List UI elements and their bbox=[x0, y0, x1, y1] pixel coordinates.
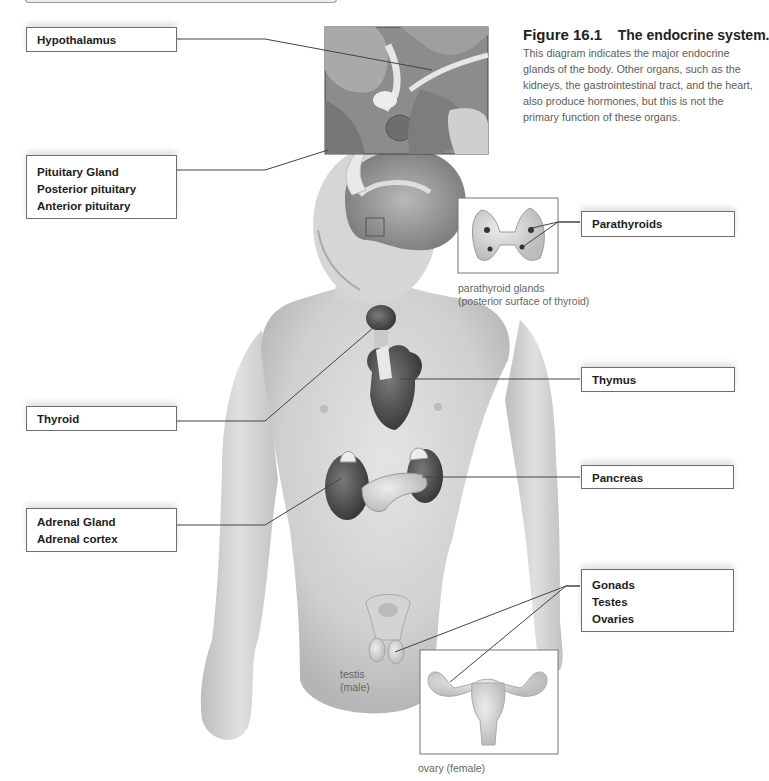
figure-number: Figure 16.1 bbox=[523, 26, 602, 43]
testis-caption-line2: (male) bbox=[340, 681, 370, 694]
label-anterior-pituitary: Anterior pituitary bbox=[37, 198, 166, 215]
pituitary-inset bbox=[325, 27, 488, 154]
label-gonads-text: Gonads bbox=[592, 577, 723, 594]
label-ovaries-text: Ovaries bbox=[592, 611, 723, 628]
label-hypothalamus-text: Hypothalamus bbox=[37, 32, 166, 49]
testis-caption: testis (male) bbox=[340, 668, 370, 694]
label-thymus-text: Thymus bbox=[592, 372, 724, 389]
label-thyroid: Thyroid bbox=[26, 406, 177, 431]
thyroid-icon bbox=[366, 305, 396, 331]
label-gonads: Gonads Testes Ovaries bbox=[581, 569, 734, 632]
figure-caption: Figure 16.1 The endocrine system. This d… bbox=[523, 26, 753, 125]
figure-title: Figure 16.1 The endocrine system. bbox=[523, 26, 753, 44]
label-testes-text: Testes bbox=[592, 594, 723, 611]
label-adrenal-gland: Adrenal Gland bbox=[37, 514, 166, 531]
ovary-inset bbox=[420, 650, 558, 754]
label-pituitary: Pituitary Gland Posterior pituitary Ante… bbox=[26, 155, 177, 219]
label-adrenal-cortex: Adrenal cortex bbox=[37, 531, 166, 548]
brain-icon bbox=[345, 150, 466, 250]
label-thyroid-text: Thyroid bbox=[37, 411, 166, 428]
label-posterior-pituitary: Posterior pituitary bbox=[37, 181, 166, 198]
label-adrenal: Adrenal Gland Adrenal cortex bbox=[26, 508, 177, 552]
parathyroid-inset-caption: parathyroid glands (posterior surface of… bbox=[458, 282, 589, 308]
label-thymus: Thymus bbox=[581, 367, 735, 392]
parathyroid-caption-line1: parathyroid glands bbox=[458, 282, 589, 295]
testis-caption-line1: testis bbox=[340, 668, 370, 681]
label-pituitary-gland: Pituitary Gland bbox=[37, 164, 166, 181]
label-pancreas-text: Pancreas bbox=[592, 470, 723, 487]
testis-icon bbox=[369, 638, 385, 662]
label-hypothalamus: Hypothalamus bbox=[26, 27, 177, 52]
figure-caption-body: This diagram indicates the major endocri… bbox=[523, 45, 753, 125]
label-parathyroids-text: Parathyroids bbox=[592, 216, 724, 233]
ovary-caption: ovary (female) bbox=[418, 762, 485, 775]
label-pancreas: Pancreas bbox=[581, 465, 734, 489]
parathyroid-inset bbox=[458, 198, 558, 273]
parathyroid-caption-line2: (posterior surface of thyroid) bbox=[458, 295, 589, 308]
figure-title-text: The endocrine system. bbox=[618, 27, 769, 43]
label-parathyroids: Parathyroids bbox=[581, 211, 735, 237]
